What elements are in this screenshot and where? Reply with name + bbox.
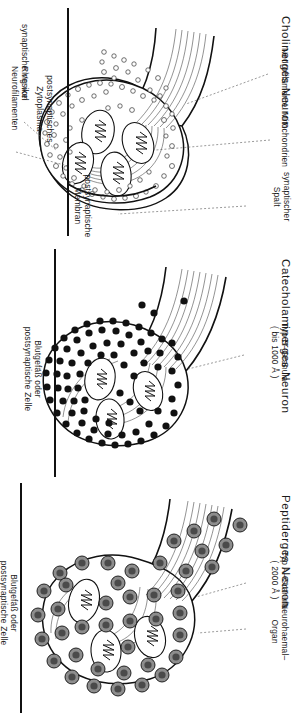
figure-stage: Cholinerges Neuron <box>0 0 306 721</box>
leader-neurohaemal-organ <box>198 629 246 633</box>
panel-catecholaminergic-neuron: Catecholaminerges Neuron <box>0 243 306 483</box>
caption-postsynaptic-membrane: postsynaptische Membran <box>72 170 92 242</box>
target-cell-boundary-line <box>20 483 22 713</box>
postsynaptic-membrane-line <box>67 8 69 236</box>
label-neurohaemal-organ: Neurohaemal– Organ <box>270 603 290 660</box>
label-synaptic-cleft: synaptischer Spalt <box>272 172 292 221</box>
label-ring-of-neurofilaments: Ring von Neurofilamenten <box>10 66 30 130</box>
panel-peptidergic-neuron: Peptiderges Neuron <box>0 479 306 721</box>
label-type-a-granule: Typ A–Granula ( 2000 Å ) <box>270 551 290 609</box>
panel-cholinergic-neuron: Cholinerges Neuron <box>0 0 306 245</box>
target-cell-boundary-line <box>54 249 56 477</box>
axon-upper-edge <box>182 36 214 126</box>
catecholaminergic-artwork <box>0 243 306 483</box>
caption-blood-vessel-or-postsynaptic-cell: Blutgefäß oder postsynaptische Zelle <box>22 299 42 439</box>
label-type-b-granule: Typ B–Granula ( bis 1000 Å ) <box>270 323 290 381</box>
peptidergic-artwork <box>0 479 306 721</box>
label-neurofilaments: Neurofilamente <box>280 48 290 108</box>
label-mitochondria: Mitochondrien <box>280 112 290 167</box>
caption-postsynaptic-cytoplasm: postsynaptisches Zytoplasma <box>34 62 54 156</box>
caption-blood-vessel-or-postsynaptic-cell: Blutgefäß oder postsynaptische Zelle <box>0 533 18 673</box>
